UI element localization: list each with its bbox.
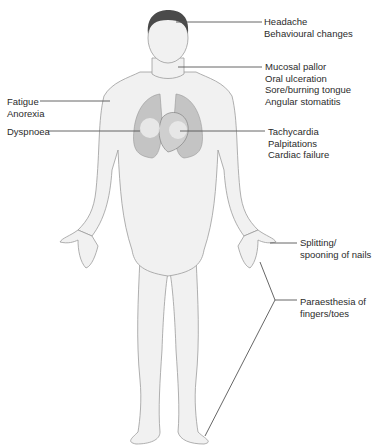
label-line: Oral ulceration (265, 73, 351, 85)
label-line: Paraesthesia of (300, 296, 366, 308)
diagram-canvas: Headache Behavioural changes Mucosal pal… (0, 0, 373, 446)
label-line: Behavioural changes (264, 28, 353, 40)
label-line: Mucosal pallor (265, 61, 351, 73)
label-headache: Headache Behavioural changes (264, 16, 353, 39)
label-line: Angular stomatitis (265, 96, 351, 108)
label-line: Anorexia (7, 108, 45, 120)
label-line: spooning of nails (300, 249, 371, 261)
label-line: Fatigue (7, 96, 45, 108)
label-line: Palpitations (268, 138, 329, 150)
label-line: Cardiac failure (268, 149, 329, 161)
label-line: Splitting/ (300, 237, 371, 249)
label-nails: Splitting/ spooning of nails (300, 237, 371, 260)
label-line: Tachycardia (268, 126, 329, 138)
label-heart: Tachycardia Palpitations Cardiac failure (268, 126, 329, 161)
label-paraesthesia: Paraesthesia of fingers/toes (300, 296, 366, 319)
label-dyspnoea: Dyspnoea (7, 126, 50, 138)
label-line: Dyspnoea (7, 126, 50, 138)
label-line: Sore/burning tongue (265, 84, 351, 96)
label-mouth: Mucosal pallor Oral ulceration Sore/burn… (265, 61, 351, 107)
label-fatigue: Fatigue Anorexia (7, 96, 45, 119)
label-line: fingers/toes (300, 308, 366, 320)
label-line: Headache (264, 16, 353, 28)
